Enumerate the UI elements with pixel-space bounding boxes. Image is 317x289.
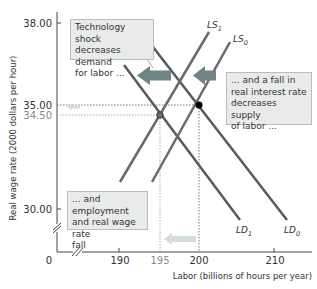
- y-axis-title: Real wage rate (2000 dollars per hour): [8, 56, 18, 221]
- y-ticks: [57, 23, 61, 209]
- ld0-label: LD0: [284, 225, 300, 238]
- y-axis-break-icon: [53, 223, 61, 233]
- new-equilibrium-point: [157, 112, 164, 119]
- ls0-label: LS0: [233, 34, 248, 47]
- labor-market-chart: 38.00 35.00 34.50 30.00 0 190 195 200 21…: [0, 0, 317, 289]
- result-note: ... and employment and real wage rate fa…: [67, 191, 148, 230]
- demand-shift-note: Technology shock decreases demand for la…: [70, 19, 154, 60]
- x-tick-origin: 0: [46, 255, 52, 266]
- x-tick-210: 210: [265, 255, 284, 266]
- demand-shift-arrow-icon: [137, 66, 171, 85]
- x-ticks: [119, 248, 274, 252]
- ld1-label: LD1: [236, 225, 252, 238]
- ls1-label: LS1: [207, 20, 222, 33]
- initial-equilibrium-point: [196, 102, 203, 109]
- y-tick-30: 30.00: [23, 204, 52, 215]
- x-tick-195: 195: [150, 255, 169, 266]
- supply-shift-note: ... and a fall in real interest rate dec…: [226, 72, 312, 125]
- x-tick-190: 190: [110, 255, 129, 266]
- employment-fall-arrow-icon: [164, 233, 196, 245]
- x-tick-200: 200: [189, 255, 208, 266]
- y-tick-38: 38.00: [23, 18, 52, 29]
- supply-shift-arrow-icon: [193, 66, 216, 85]
- x-axis-title: Labor (billions of hours per year): [173, 271, 312, 281]
- y-tick-345: 34.50: [23, 110, 52, 121]
